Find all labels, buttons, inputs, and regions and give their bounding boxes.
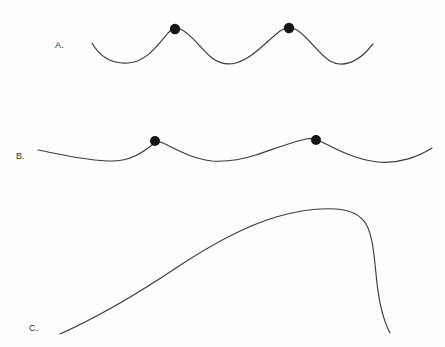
panel-label-c: C. (29, 323, 39, 333)
panel-label-a: A. (55, 40, 64, 50)
curve-a-path (92, 28, 373, 64)
curve-b-marker-2 (311, 135, 321, 145)
curve-b-marker-1 (150, 136, 160, 146)
figure-canvas: A. B. C. (0, 0, 445, 347)
curve-group-c (60, 209, 390, 334)
panel-label-b: B. (16, 151, 25, 161)
curve-c-path (60, 209, 390, 334)
curve-b-path (38, 139, 432, 163)
curve-a-marker-1 (170, 24, 180, 34)
curves-svg (0, 0, 445, 347)
curve-a-marker-2 (284, 23, 294, 33)
curve-group-a (92, 23, 373, 64)
curve-group-b (38, 135, 432, 162)
